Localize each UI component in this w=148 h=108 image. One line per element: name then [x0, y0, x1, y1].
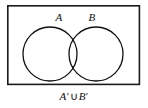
universal-set-rectangle — [8, 6, 140, 85]
set-a-label: A — [53, 12, 65, 23]
caption-set-b-prime: ′ — [86, 90, 89, 102]
caption-set-a: A — [60, 90, 67, 102]
caption-set-b: B — [79, 90, 86, 102]
set-b-label: B — [86, 12, 98, 23]
venn-diagram-figure: A B A′∪B′ — [0, 0, 148, 108]
figure-caption: A′∪B′ — [0, 90, 148, 102]
union-operator-icon: ∪ — [69, 90, 78, 102]
